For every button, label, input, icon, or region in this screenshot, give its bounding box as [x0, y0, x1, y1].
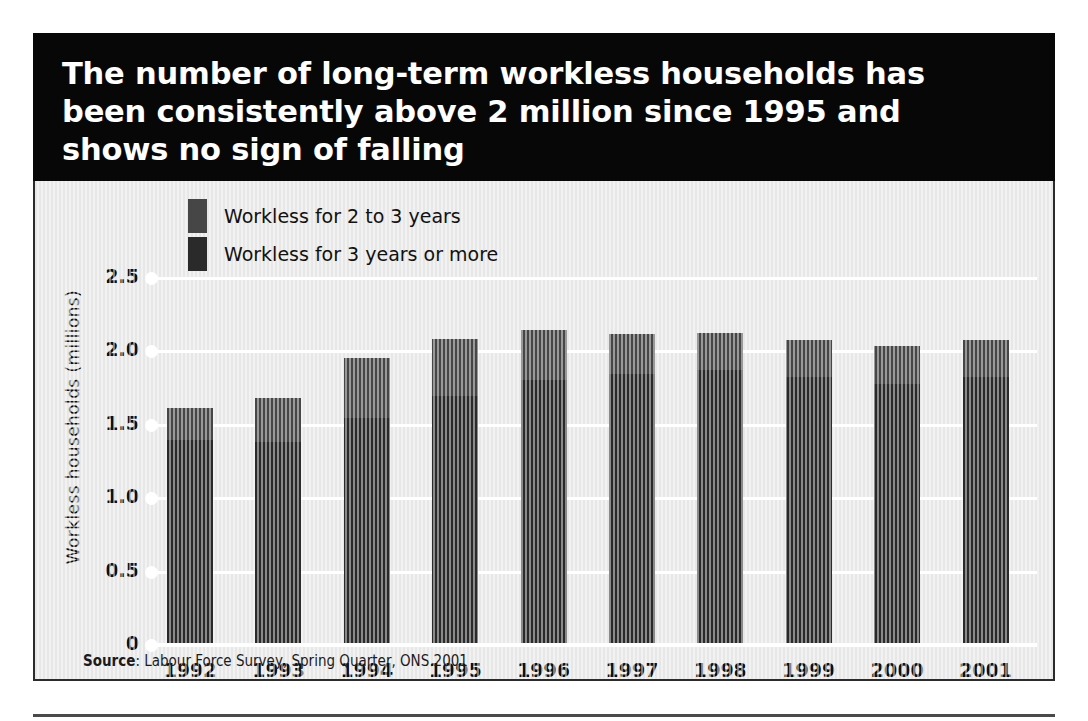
x-axis-tick-label: 1998	[674, 659, 766, 681]
page-edge-artifact	[33, 714, 1055, 717]
legend-swatch-3-years-or-more	[188, 237, 207, 271]
gridline	[153, 277, 1037, 280]
bar-segment-2-to-3-years[interactable]	[697, 333, 743, 370]
bar-segment-2-to-3-years[interactable]	[786, 340, 832, 377]
bar-segment-2-to-3-years[interactable]	[609, 334, 655, 374]
source-note: Source: Labour Force Survey, Spring Quar…	[83, 652, 468, 670]
bar-segment-2-to-3-years[interactable]	[167, 408, 213, 440]
y-axis-tick-label: 1.5	[35, 412, 139, 434]
bar-stack[interactable]	[167, 408, 213, 643]
source-label: Source	[83, 652, 135, 670]
y-axis-tick-label: 0.5	[35, 559, 139, 581]
y-axis-tick-dot	[145, 272, 158, 285]
bar-segment-3-years-or-more[interactable]	[255, 442, 301, 643]
bar-stack[interactable]	[521, 330, 567, 643]
legend-label-2-to-3-years: Workless for 2 to 3 years	[224, 205, 461, 227]
x-axis-tick-label: 2000	[851, 659, 943, 681]
legend-item: Workless for 3 years or more	[188, 235, 498, 273]
bar-segment-2-to-3-years[interactable]	[432, 339, 478, 396]
source-text: : Labour Force Survey, Spring Quarter, O…	[135, 652, 467, 670]
title-banner: The number of long-term workless househo…	[33, 33, 1055, 181]
x-axis-baseline	[145, 643, 1037, 647]
legend-item: Workless for 2 to 3 years	[188, 197, 498, 235]
bar-segment-3-years-or-more[interactable]	[609, 374, 655, 643]
bar-segment-3-years-or-more[interactable]	[344, 418, 390, 643]
x-axis-tick-label: 2001	[940, 659, 1032, 681]
legend-swatch-2-to-3-years	[188, 199, 207, 233]
bar-segment-3-years-or-more[interactable]	[432, 396, 478, 643]
bar-segment-3-years-or-more[interactable]	[167, 440, 213, 643]
bar-stack[interactable]	[963, 340, 1009, 643]
bar-stack[interactable]	[609, 334, 655, 643]
bar-segment-3-years-or-more[interactable]	[963, 377, 1009, 643]
bar-segment-3-years-or-more[interactable]	[786, 377, 832, 643]
chart-legend: Workless for 2 to 3 years Workless for 3…	[188, 197, 498, 273]
bar-stack[interactable]	[874, 346, 920, 643]
bar-segment-3-years-or-more[interactable]	[874, 384, 920, 643]
y-axis-tick-dot	[145, 492, 158, 505]
y-axis-tick-label: 2.0	[35, 338, 139, 360]
bar-segment-3-years-or-more[interactable]	[521, 380, 567, 643]
bar-segment-3-years-or-more[interactable]	[697, 370, 743, 643]
chart-panel: Workless households (millions) Workless …	[33, 181, 1055, 681]
y-axis-tick-dot	[145, 345, 158, 358]
legend-label-3-years-or-more: Workless for 3 years or more	[224, 243, 498, 265]
bar-stack[interactable]	[344, 358, 390, 643]
y-axis-tick-dot	[145, 419, 158, 432]
bar-stack[interactable]	[697, 333, 743, 643]
y-axis-tick-label: 2.5	[35, 265, 139, 287]
bar-stack[interactable]	[255, 398, 301, 643]
bar-segment-2-to-3-years[interactable]	[255, 398, 301, 442]
y-axis-tick-label: 1.0	[35, 485, 139, 507]
bar-stack[interactable]	[432, 339, 478, 643]
bar-segment-2-to-3-years[interactable]	[344, 358, 390, 418]
bar-segment-2-to-3-years[interactable]	[874, 346, 920, 384]
x-axis-tick-label: 1997	[586, 659, 678, 681]
x-axis-tick-label: 1996	[498, 659, 590, 681]
y-axis-tick-dot	[145, 566, 158, 579]
bar-segment-2-to-3-years[interactable]	[521, 330, 567, 380]
bar-segment-2-to-3-years[interactable]	[963, 340, 1009, 377]
x-axis-tick-label: 1999	[763, 659, 855, 681]
y-axis-tick-label: 0	[35, 632, 139, 654]
bar-stack[interactable]	[786, 340, 832, 643]
page-title: The number of long-term workless househo…	[62, 55, 1002, 169]
figure: The number of long-term workless househo…	[33, 33, 1055, 681]
